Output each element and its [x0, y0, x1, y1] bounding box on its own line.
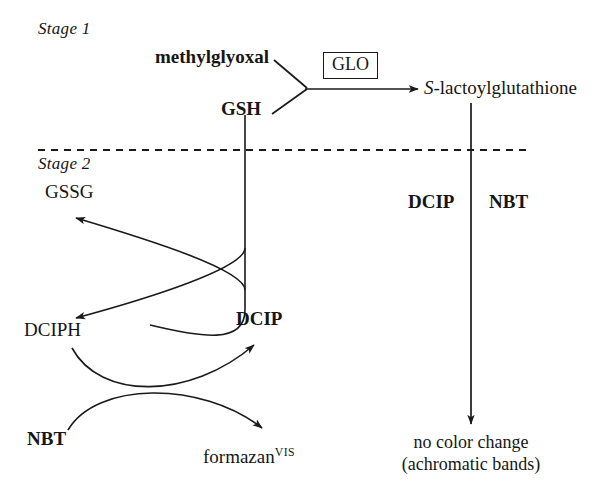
arc-to-gssg — [76, 218, 245, 290]
reagent-dcip-right: DCIP — [408, 192, 454, 212]
reagent-nbt-right: NBT — [489, 192, 528, 212]
stage-2-title: Stage 2 — [38, 155, 91, 173]
product-s-lactoylglutathione: S-lactoylglutathione — [424, 78, 577, 98]
outcome-line-2: (achromatic bands) — [391, 454, 551, 476]
metabolite-gssg: GSSG — [45, 182, 94, 202]
metabolite-dcip-left: DCIP — [236, 309, 282, 329]
substrate-gsh: GSH — [221, 99, 261, 119]
product-formazan: formazanVIS — [203, 447, 295, 467]
diagram-canvas: Stage 1 methylglyoxal GSH GLO S-lactoylg… — [0, 0, 602, 500]
outcome-no-color-change: no color change (achromatic bands) — [391, 432, 551, 476]
metabolite-dciph: DCIPH — [24, 320, 81, 340]
stage1-converging-lines — [272, 60, 307, 114]
diagram-lines — [0, 0, 602, 500]
formazan-superscript-vis: VIS — [275, 446, 295, 459]
enzyme-glo-box: GLO — [323, 52, 378, 79]
gsh-to-gssg-path — [150, 115, 245, 335]
substrate-methylglyoxal: methylglyoxal — [155, 47, 269, 67]
outcome-line-1: no color change — [391, 432, 551, 454]
stage-1-title: Stage 1 — [38, 20, 91, 38]
reagent-nbt-left: NBT — [27, 429, 66, 449]
product-stereo-prefix: S — [424, 77, 434, 98]
arc-nbt-to-formazan — [68, 393, 262, 430]
arc-dciph-to-dcip — [72, 345, 254, 387]
product-name-rest: -lactoylglutathione — [434, 77, 578, 98]
arc-to-dciph — [76, 248, 245, 318]
formazan-base: formazan — [203, 446, 275, 467]
